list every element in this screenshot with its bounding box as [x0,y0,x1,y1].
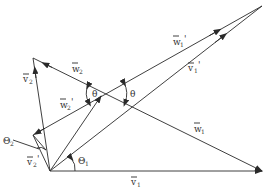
label-v1-prime: v 1 ' [187,60,200,74]
svg-text:': ' [71,97,73,107]
label-v2: v 2 [22,74,33,85]
label-theta-right: θ [130,89,135,99]
vector-v2-arrow [35,70,36,78]
vector-w2-arrow [45,64,52,67]
svg-text:2: 2 [79,68,83,75]
label-w1-prime: w 1 ' [173,34,186,48]
label-theta1: Θ 1 [78,156,89,167]
theta-arc-right [124,83,127,103]
vector-diagram-svg: θ θ w 1 ' v 1 ' w 2 v 2 w 2 ' w 1 v 2 ' … [0,0,269,189]
svg-text:1: 1 [137,181,141,188]
svg-text:v: v [187,63,194,73]
label-v1: v 1 [130,177,141,188]
theta1-arc [71,158,75,171]
svg-text:2: 2 [29,78,33,85]
vector-v1-prime [50,6,262,171]
label-w2-prime: w 2 ' [60,97,73,111]
svg-text:2: 2 [10,140,14,147]
vector-w1-prime [33,6,262,135]
vector-v1-prime-arrow [215,36,224,43]
svg-text:v: v [26,157,33,167]
svg-text:': ' [184,34,186,44]
svg-text:1: 1 [201,128,205,135]
svg-text:v: v [22,74,29,84]
svg-text:1: 1 [85,160,89,167]
svg-text:v: v [130,177,137,187]
label-theta-left: θ [92,89,97,99]
theta-arc-left [86,86,89,103]
vector-w1 [33,58,262,171]
theta2-leader [13,140,39,149]
label-v2-prime: v 2 ' [26,154,39,168]
label-w2: w 2 [72,63,83,75]
label-w1: w 1 [194,123,205,135]
label-theta2: Θ 2 [3,136,14,147]
svg-text:': ' [37,154,39,164]
vector-w1-prime-arrow [209,31,218,36]
vector-diagram: θ θ w 1 ' v 1 ' w 2 v 2 w 2 ' w 1 v 2 ' … [0,0,269,189]
svg-text:': ' [198,60,200,70]
vector-middle [50,96,101,171]
